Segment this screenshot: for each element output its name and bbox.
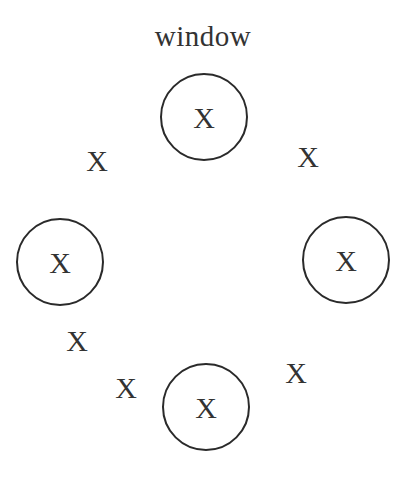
node-top: X — [160, 73, 248, 161]
node-bottom: X — [162, 363, 250, 451]
node-left: X — [16, 218, 104, 306]
mark-top-left: X — [86, 146, 108, 176]
mark-mid-left: X — [66, 326, 88, 356]
mark-bottom-left: X — [115, 373, 137, 403]
node-left-label: X — [49, 248, 71, 278]
node-right: X — [302, 216, 390, 304]
mark-bottom-right: X — [285, 358, 307, 388]
mark-top-right: X — [297, 142, 319, 172]
diagram-title: window — [0, 22, 412, 51]
node-right-label: X — [335, 246, 357, 276]
node-top-label: X — [193, 103, 215, 133]
node-bottom-label: X — [195, 393, 217, 423]
